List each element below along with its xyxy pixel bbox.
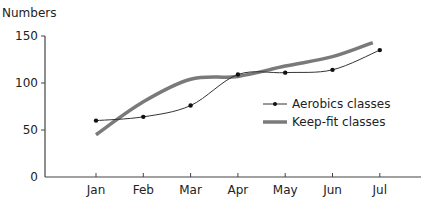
- legend-aerobics-label: Aerobics classes: [292, 97, 390, 111]
- aerobics-data-point: [188, 103, 192, 107]
- y-axis: 050100150: [15, 29, 45, 184]
- y-tick-label: 150: [15, 29, 38, 43]
- x-tick-label: Feb: [133, 183, 154, 197]
- y-axis-label: Numbers: [2, 6, 56, 20]
- legend-aerobics-dot-icon: [273, 102, 277, 106]
- x-tick-label: Jun: [322, 183, 342, 197]
- y-tick-label: 50: [23, 123, 38, 137]
- aerobics-data-point: [330, 68, 334, 72]
- y-tick-label: 0: [30, 170, 38, 184]
- aerobics-data-point: [94, 118, 98, 122]
- line-chart: Numbers 050100150 JanFebMarAprMayJunJul …: [0, 0, 431, 203]
- x-axis: JanFebMarAprMayJunJul: [45, 173, 421, 197]
- legend-keepfit-label: Keep-fit classes: [292, 115, 386, 129]
- x-tick-label: May: [273, 183, 298, 197]
- legend: Aerobics classes Keep-fit classes: [263, 97, 390, 129]
- y-tick-label: 100: [15, 76, 38, 90]
- aerobics-data-point: [141, 115, 145, 119]
- aerobics-data-point: [378, 48, 382, 52]
- x-tick-label: Apr: [228, 183, 249, 197]
- aerobics-data-point: [283, 70, 287, 74]
- x-tick-label: Mar: [179, 183, 202, 197]
- x-tick-label: Jul: [372, 183, 387, 197]
- aerobics-data-point: [236, 72, 240, 76]
- x-tick-label: Jan: [86, 183, 106, 197]
